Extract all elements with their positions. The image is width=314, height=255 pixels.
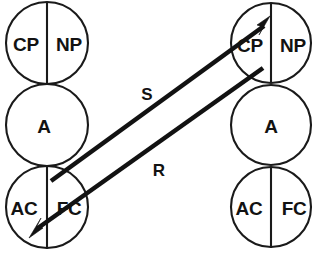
left-adult-label: A (37, 116, 51, 137)
left-child-ac-label: AC (11, 198, 38, 219)
left-parent-cp-label: CP (13, 34, 39, 55)
right-child-fc-label: FC (282, 198, 307, 219)
ego-state-left-child[interactable]: AC FC (6, 166, 88, 249)
right-child-ac-label: AC (236, 198, 263, 219)
transactional-analysis-diagram: CP NP A AC FC CP NP (0, 0, 314, 255)
right-adult-label: A (264, 116, 278, 137)
ego-state-left-parent[interactable]: CP NP (6, 2, 88, 84)
ego-state-right-adult[interactable]: A (231, 85, 311, 165)
left-parent-np-label: NP (56, 34, 82, 55)
diagram-canvas: CP NP A AC FC CP NP (0, 0, 314, 255)
response-label: R (153, 161, 165, 180)
right-parent-np-label: NP (280, 35, 306, 56)
left-person-column: CP NP A AC FC (6, 2, 88, 249)
ego-state-right-child[interactable]: AC FC (231, 167, 311, 248)
stimulus-label: S (141, 85, 152, 104)
ego-state-left-adult[interactable]: A (6, 84, 88, 166)
